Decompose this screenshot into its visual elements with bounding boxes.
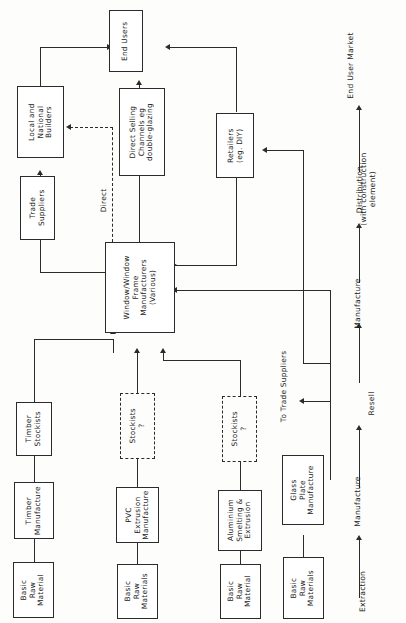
axis-arrowhead-5: [356, 105, 362, 110]
edge-timberstk-up: [34, 339, 35, 402]
node-pvc-stockists-label: Stockists?: [129, 408, 146, 443]
edge-alustk-up: [240, 360, 241, 396]
node-basic-raw-materials-glass-label: BasicRawMaterials: [290, 570, 316, 606]
arrowhead-to-trade-suppliers: [299, 398, 304, 404]
node-basic-raw-materials-glass[interactable]: BasicRawMaterials: [283, 557, 324, 619]
edge-direct-dashed-h: [70, 127, 113, 128]
arrowhead-tradesup-builders: [37, 170, 43, 175]
node-glass-plate-manufacture-label: GlassPlateManufacture: [290, 465, 316, 514]
node-pvc-extrusion-manufacture[interactable]: PVCExtrusionManufacture: [116, 487, 159, 543]
node-basic-raw-material-aluminium-label: BasicRawMaterial: [227, 575, 253, 607]
edge-alustk-into-manu: [163, 353, 164, 361]
node-aluminium-stockists-label: Stockists?: [231, 411, 248, 446]
edge-glass-branch-tie: [303, 363, 331, 364]
edge-timberstk-right: [34, 339, 114, 340]
node-pvc-extrusion-manufacture-label: PVCExtrusionManufacture: [124, 490, 150, 539]
edge-manu-retailers-h: [175, 265, 237, 266]
axis-arrow-line-3: [359, 328, 360, 383]
axis-stage-manufacture-1: Manufacture: [333, 494, 384, 508]
axis-arrowhead-1: [356, 535, 362, 540]
node-timber-stockists-label: TimberStockists: [25, 411, 42, 446]
node-trade-suppliers-label: TradeSuppliers: [29, 190, 46, 227]
node-retailers[interactable]: Retailers(eg. DIY): [216, 113, 254, 178]
edge-to-trade-suppliers-h: [303, 401, 331, 402]
node-basic-raw-material-timber[interactable]: BasicRawMaterial: [13, 562, 54, 618]
node-timber-manufacture[interactable]: TimberManufacture: [14, 482, 54, 539]
edge-rawtimber-timbermfg: [34, 538, 35, 562]
arrowhead-glass-retailers: [262, 147, 267, 153]
edge-manu-to-tradesup-h: [40, 272, 106, 273]
edge-rawglass-glassmfg: [303, 535, 304, 557]
edge-alustk-left: [163, 360, 241, 361]
edge-manu-to-tradesup-v: [40, 240, 41, 273]
edge-glass-to-manu: [176, 290, 331, 291]
node-local-national-builders[interactable]: Local andNationalBuilders: [17, 86, 64, 158]
arrowhead-direct-builders: [66, 124, 71, 130]
edge-builders-up: [40, 47, 41, 86]
node-basic-raw-materials-pvc[interactable]: BasicRawMaterials: [117, 564, 158, 619]
node-basic-raw-material-timber-label: BasicRawMaterial: [20, 574, 46, 606]
node-end-users-label: End Users: [122, 21, 131, 60]
edge-manu-retailers-v: [236, 178, 237, 266]
arrowhead-alu-manu: [160, 348, 166, 353]
axis-stage-extraction: Extraction: [343, 584, 384, 598]
node-timber-manufacture-label: TimberManufacture: [25, 486, 42, 535]
arrowhead-directselling-endusers: [136, 80, 142, 85]
node-window-manufacturers-label: Window/WindowFrameManufacturers(Various): [123, 255, 158, 319]
flowchart-diagram: End Users Local andNationalBuilders Trad…: [0, 0, 406, 623]
arrowhead-retailers-endusers: [165, 44, 170, 50]
node-trade-suppliers[interactable]: TradeSuppliers: [20, 176, 55, 240]
edge-pvcstk-manu: [137, 353, 138, 393]
edge-label-to-trade-suppliers: To Trade Suppliers: [276, 350, 294, 422]
node-pvc-stockists[interactable]: Stockists?: [120, 393, 155, 459]
edge-manu-directselling: [139, 176, 140, 242]
edge-label-direct: Direct: [96, 180, 114, 220]
edge-glass-retailers-h: [266, 150, 304, 151]
edge-timberstk-into-manu: [113, 339, 114, 353]
edge-timbermfg-stockists: [34, 455, 35, 482]
node-retailers-label: Retailers(eg. DIY): [226, 128, 243, 163]
edge-pvcext-stockists: [137, 459, 138, 487]
edge-builders-to-endusers: [40, 47, 109, 48]
node-timber-stockists[interactable]: TimberStockists: [16, 402, 52, 456]
node-direct-selling-channels[interactable]: Direct SellingChannels egdouble-glazing: [119, 88, 165, 176]
node-window-manufacturers[interactable]: Window/WindowFrameManufacturers(Various): [105, 242, 175, 333]
axis-arrow-line-4: [359, 228, 360, 283]
edge-glass-retailers-v: [303, 150, 304, 363]
node-aluminium-smelting-extrusion[interactable]: AluminiumSmelting &Extrusion: [218, 490, 262, 551]
axis-arrowhead-2: [356, 425, 362, 430]
node-aluminium-stockists[interactable]: Stockists?: [222, 396, 257, 462]
node-end-users[interactable]: End Users: [109, 10, 143, 72]
edge-retailers-up: [236, 47, 237, 112]
node-local-national-builders-label: Local andNationalBuilders: [27, 103, 53, 141]
node-aluminium-smelting-extrusion-label: AluminiumSmelting &Extrusion: [227, 499, 253, 542]
edge-retailers-to-endusers: [169, 47, 237, 48]
arrowhead-pvc-manu: [134, 348, 140, 353]
axis-stage-distribution-note: (with constructionelement): [331, 182, 404, 196]
node-glass-plate-manufacture[interactable]: GlassPlateManufacture: [282, 455, 324, 525]
axis-stage-manufacture-2: Manufacture: [333, 296, 384, 310]
edge-alusmelt-stockists: [240, 462, 241, 490]
node-direct-selling-channels-label: Direct SellingChannels egdouble-glazing: [129, 103, 155, 161]
node-basic-raw-materials-pvc-label: BasicRawMaterials: [124, 573, 150, 609]
axis-stage-end-user-market: End User Market: [318, 58, 384, 72]
node-basic-raw-material-aluminium[interactable]: BasicRawMaterial: [220, 564, 261, 619]
process-stage-axis: Extraction Manufacture Resell Manufactur…: [330, 0, 406, 623]
axis-stage-resell: Resell: [360, 396, 384, 410]
edge-rawpvc-pvcext: [137, 542, 138, 564]
